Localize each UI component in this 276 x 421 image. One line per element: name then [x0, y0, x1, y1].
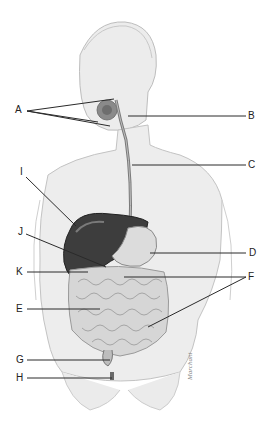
label-g: G	[16, 355, 24, 365]
label-e: E	[16, 304, 23, 314]
label-c: C	[248, 160, 255, 170]
artist-signature: Marchant	[186, 353, 194, 380]
label-j: J	[18, 227, 23, 237]
label-h: H	[16, 373, 23, 383]
label-f: F	[248, 272, 254, 282]
label-b: B	[248, 111, 255, 121]
label-i: I	[20, 167, 23, 177]
anatomy-illustration	[0, 0, 276, 421]
digestive-system-diagram: A B C D E F G H I J K Marchant	[0, 0, 276, 421]
label-a: A	[15, 105, 22, 115]
label-k: K	[16, 267, 23, 277]
label-d: D	[249, 248, 256, 258]
